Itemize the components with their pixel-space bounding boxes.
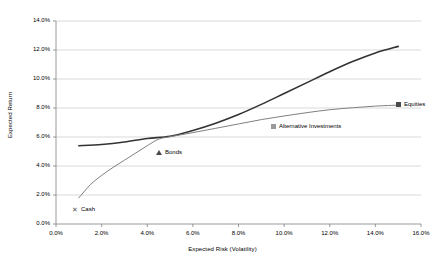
- point-label-alternative-investments: Alternative Investments: [271, 123, 341, 129]
- point-label-text: Alternative Investments: [279, 123, 341, 129]
- series-line-0: [79, 46, 398, 145]
- series-line-1: [79, 105, 398, 198]
- x-tick-label: 8.0%: [222, 230, 256, 236]
- point-label-text: Cash: [81, 206, 95, 212]
- point-label-cash: ✕Cash: [72, 206, 95, 212]
- y-tick-label: 6.0%: [20, 133, 50, 139]
- series-lines: [79, 46, 398, 198]
- x-tick-label: 6.0%: [176, 230, 210, 236]
- x-axis-title: Expected Risk (Volatility): [0, 246, 445, 252]
- chart-container: 0.0%2.0%4.0%6.0%8.0%10.0%12.0%14.0% 0.0%…: [0, 0, 445, 261]
- y-tick-label: 8.0%: [20, 104, 50, 110]
- x-tick-label: 12.0%: [313, 230, 347, 236]
- triangle-marker-icon: [156, 150, 162, 155]
- x-tick-label: 0.0%: [39, 230, 73, 236]
- x-tick-label: 14.0%: [358, 230, 392, 236]
- x-tick-label: 2.0%: [85, 230, 119, 236]
- x-marker-icon: ✕: [72, 207, 78, 212]
- square-marker-icon: [271, 124, 276, 129]
- square-marker-icon: [396, 102, 401, 107]
- y-tick-label: 12.0%: [20, 46, 50, 52]
- x-tick-label: 16.0%: [404, 230, 438, 236]
- chart-plot-area: [0, 0, 445, 261]
- point-label-equities: Equities: [396, 101, 425, 107]
- point-label-text: Bonds: [165, 149, 182, 155]
- y-tick-label: 14.0%: [20, 17, 50, 23]
- y-tick-label: 2.0%: [20, 191, 50, 197]
- x-tick-label: 10.0%: [267, 230, 301, 236]
- point-label-bonds: Bonds: [156, 149, 182, 155]
- y-tick-label: 4.0%: [20, 162, 50, 168]
- x-tick-label: 4.0%: [130, 230, 164, 236]
- y-axis-title: Expected Return: [7, 75, 13, 155]
- y-tick-label: 0.0%: [20, 220, 50, 226]
- y-tick-label: 10.0%: [20, 75, 50, 81]
- point-label-text: Equities: [404, 101, 425, 107]
